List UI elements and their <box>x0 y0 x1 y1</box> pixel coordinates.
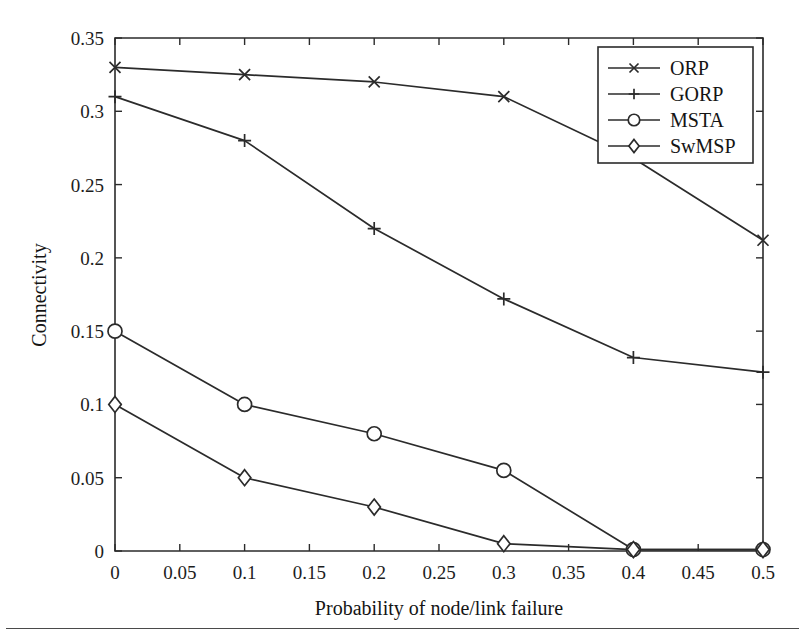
marker-circle <box>238 397 252 411</box>
x-tick-label: 0.45 <box>682 562 715 583</box>
x-tick-label: 0.2 <box>362 562 386 583</box>
y-tick-label: 0 <box>95 541 105 562</box>
y-tick-label: 0.05 <box>71 468 104 489</box>
x-tick-label: 0.05 <box>163 562 196 583</box>
marker-diamond <box>498 536 510 552</box>
line-chart: 00.050.10.150.20.250.30.350.40.450.5 00.… <box>0 0 805 644</box>
x-tick-label: 0.5 <box>751 562 775 583</box>
x-tick-label: 0.3 <box>492 562 516 583</box>
y-tick-label: 0.35 <box>71 28 104 49</box>
x-tick-label: 0.25 <box>422 562 455 583</box>
legend-label: MSTA <box>670 109 725 131</box>
marker-circle <box>108 324 122 338</box>
series-swmsp <box>109 396 769 557</box>
marker-plus <box>757 366 770 379</box>
marker-diamond <box>109 396 121 412</box>
y-axis-title: Connectivity <box>28 243 51 346</box>
legend: ORPGORPMSTASwMSP <box>598 47 753 163</box>
marker-plus <box>109 90 122 103</box>
marker-diamond <box>368 499 380 515</box>
x-tick-label: 0 <box>110 562 120 583</box>
y-tick-label: 0.3 <box>80 101 104 122</box>
marker-plus <box>368 222 381 235</box>
y-axis-tick-labels: 00.050.10.150.20.250.30.35 <box>71 28 104 562</box>
figure-canvas: 00.050.10.150.20.250.30.350.40.450.5 00.… <box>0 0 805 644</box>
marker-plus <box>238 134 251 147</box>
x-axis-title: Probability of node/link failure <box>315 597 563 620</box>
marker-diamond <box>238 470 250 486</box>
x-tick-label: 0.15 <box>293 562 326 583</box>
marker-circle <box>367 427 381 441</box>
y-tick-label: 0.15 <box>71 321 104 342</box>
marker-plus <box>627 351 640 364</box>
series-msta <box>108 324 770 556</box>
y-tick-label: 0.2 <box>80 248 104 269</box>
series-line-swmsp <box>115 404 763 549</box>
marker-circle <box>628 114 639 125</box>
legend-label: ORP <box>670 57 709 79</box>
legend-label: SwMSP <box>670 135 736 157</box>
marker-plus <box>497 292 510 305</box>
series-line-msta <box>115 331 763 549</box>
page-footer-rule <box>6 628 799 629</box>
x-tick-label: 0.4 <box>622 562 646 583</box>
y-tick-label: 0.25 <box>71 175 104 196</box>
legend-label: GORP <box>670 83 723 105</box>
x-axis-tick-labels: 00.050.10.150.20.250.30.350.40.450.5 <box>110 562 775 583</box>
marker-circle <box>497 463 511 477</box>
x-tick-label: 0.1 <box>233 562 257 583</box>
x-tick-label: 0.35 <box>552 562 585 583</box>
y-tick-label: 0.1 <box>80 394 104 415</box>
